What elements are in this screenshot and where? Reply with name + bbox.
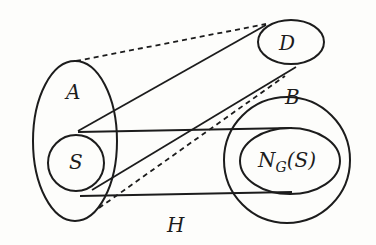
label-ngs: NG(S) bbox=[257, 148, 316, 175]
edge-s-to-d-top bbox=[78, 25, 266, 131]
edge-s-to-ngs-upper bbox=[78, 128, 292, 132]
label-b: B bbox=[284, 85, 300, 109]
dashed-edge-a-to-b bbox=[99, 76, 285, 208]
label-h: H bbox=[166, 213, 185, 237]
label-ngs-sub: G bbox=[276, 159, 287, 175]
label-s: S bbox=[69, 150, 83, 174]
label-d: D bbox=[278, 31, 295, 55]
edge-s-to-ngs-lower bbox=[80, 192, 292, 196]
dashed-edge-a-to-d bbox=[76, 24, 266, 61]
label-ngs-arg: (S) bbox=[287, 148, 316, 172]
label-ngs-main: N bbox=[257, 148, 277, 172]
label-a: A bbox=[64, 80, 80, 104]
diagram-canvas: A S D B NG(S) H bbox=[0, 0, 376, 245]
